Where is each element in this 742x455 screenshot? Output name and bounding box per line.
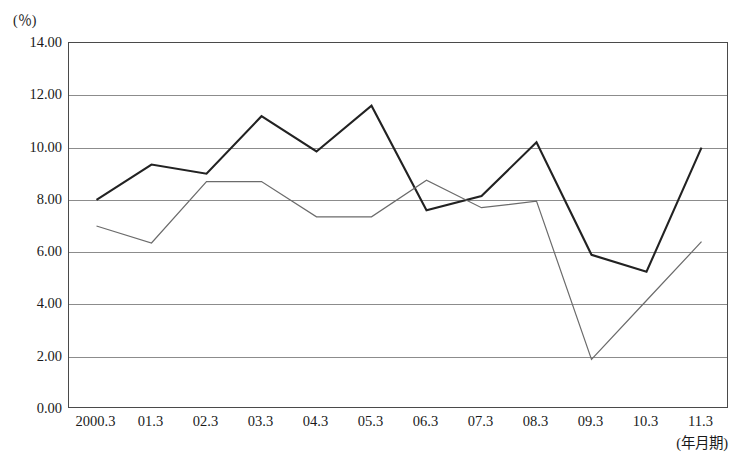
- y-tick-label: 6.00: [0, 244, 62, 259]
- x-tick-label: 11.3: [688, 414, 713, 429]
- y-tick-label: 10.00: [0, 139, 62, 154]
- line-series-gray: [97, 180, 702, 359]
- x-tick-label: 06.3: [413, 414, 438, 429]
- x-tick-label: 02.3: [193, 414, 218, 429]
- line-series-dark: [97, 106, 702, 272]
- x-tick-label: 01.3: [138, 414, 163, 429]
- y-tick-label: 12.00: [0, 87, 62, 102]
- y-tick-label: 8.00: [0, 192, 62, 207]
- x-tick-label: 09.3: [578, 414, 603, 429]
- series-lines: [69, 43, 729, 409]
- x-tick-label: 2000.3: [76, 414, 116, 429]
- x-tick-label: 10.3: [633, 414, 658, 429]
- x-tick-label: 03.3: [248, 414, 273, 429]
- y-axis-unit-label: (％): [13, 14, 36, 28]
- x-axis-title: (年月期): [676, 436, 728, 451]
- chart-title-clipped: [0, 0, 742, 9]
- x-tick-label: 07.3: [468, 414, 493, 429]
- y-tick-label: 4.00: [0, 296, 62, 311]
- y-tick-label: 14.00: [0, 35, 62, 50]
- y-tick-label: 2.00: [0, 348, 62, 363]
- plot-area: [68, 42, 728, 408]
- y-axis-tick-labels: 0.002.004.006.008.0010.0012.0014.00: [0, 42, 62, 408]
- x-tick-label: 05.3: [358, 414, 383, 429]
- x-tick-label: 04.3: [303, 414, 328, 429]
- x-tick-label: 08.3: [523, 414, 548, 429]
- x-axis-tick-labels: 2000.301.302.303.304.305.306.307.308.309…: [0, 414, 742, 436]
